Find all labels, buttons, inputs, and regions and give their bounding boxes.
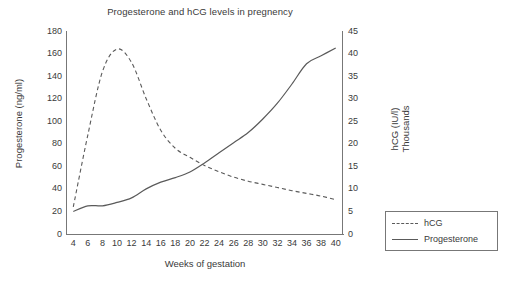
chart-legend: hCG Progesterone <box>385 211 498 251</box>
y-axis-right-title-line2: Thousands <box>400 49 411 209</box>
legend-item-progesterone[interactable]: Progesterone <box>392 232 478 246</box>
series-line-progesterone <box>73 48 335 212</box>
chart-figure: Progesterone and hCG levels in pregnency… <box>0 0 506 281</box>
legend-swatch-dashed-icon <box>392 223 418 224</box>
legend-label-progesterone: Progesterone <box>424 234 478 244</box>
y-axis-right-title-line1: hCG (IU/l) <box>389 49 400 209</box>
y-axis-left-title: Progesterone (ng/ml) <box>13 44 24 204</box>
x-axis-title: Weeks of gestation <box>66 258 344 269</box>
series-line-hcg <box>73 49 335 207</box>
y-axis-right-title: hCG (IU/l) Thousands <box>389 49 411 209</box>
legend-swatch-solid-icon <box>392 239 418 240</box>
legend-item-hcg[interactable]: hCG <box>392 216 443 230</box>
legend-label-hcg: hCG <box>424 218 443 228</box>
